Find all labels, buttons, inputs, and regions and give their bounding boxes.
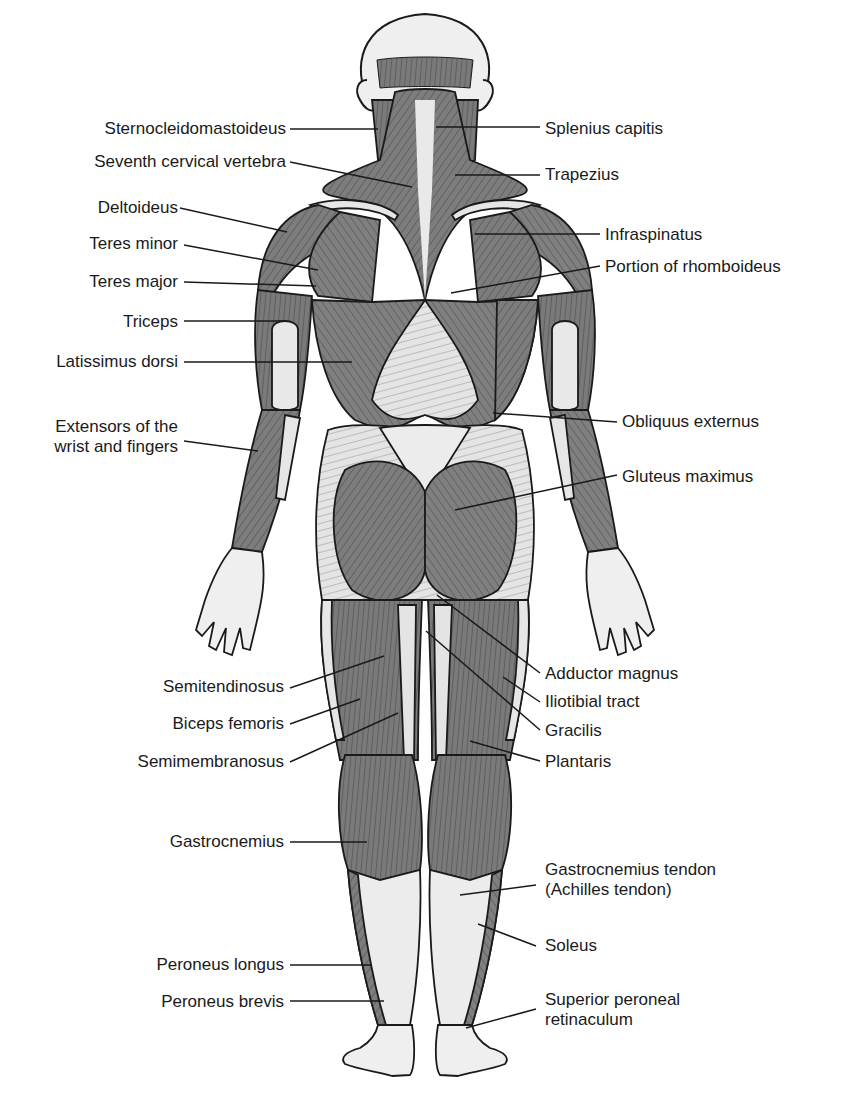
label-obliquus-externus: Obliquus externus — [622, 412, 759, 432]
label-text: Trapezius — [545, 165, 619, 185]
label-text: Triceps — [123, 312, 178, 332]
label-text: Soleus — [545, 936, 597, 956]
label-text: Gastrocnemius — [170, 832, 284, 852]
label-text: Seventh cervical vertebra — [94, 152, 286, 172]
muscle-diagram-posterior: SternocleidomastoideusSeventh cervical v… — [0, 0, 851, 1106]
label-adductor-magnus: Adductor magnus — [545, 664, 678, 684]
label-seventh-cervical-vertebra: Seventh cervical vertebra — [94, 152, 286, 172]
label-splenius-capitis: Splenius capitis — [545, 119, 663, 139]
label-triceps: Triceps — [123, 312, 178, 332]
label-soleus: Soleus — [545, 936, 597, 956]
label-biceps-femoris: Biceps femoris — [173, 714, 284, 734]
label-extensors-wrist-fingers: Extensors of thewrist and fingers — [54, 417, 178, 457]
hips-gluteus — [316, 425, 534, 600]
label-iliotibial-tract: Iliotibial tract — [545, 692, 639, 712]
label-peroneus-brevis: Peroneus brevis — [161, 992, 284, 1012]
label-plantaris: Plantaris — [545, 752, 611, 772]
label-text: Semimembranosus — [138, 752, 284, 772]
thighs-hamstrings — [321, 600, 529, 760]
label-text: Gluteus maximus — [622, 467, 753, 487]
label-text: Semitendinosus — [163, 677, 284, 697]
leader-line-extensors-wrist-fingers — [184, 441, 258, 451]
label-text: Teres major — [89, 272, 178, 292]
label-peroneus-longus: Peroneus longus — [156, 955, 284, 975]
label-teres-minor: Teres minor — [89, 234, 178, 254]
label-trapezius: Trapezius — [545, 165, 619, 185]
label-text: Peroneus longus — [156, 955, 284, 975]
label-text: Latissimus dorsi — [56, 352, 178, 372]
label-gluteus-maximus: Gluteus maximus — [622, 467, 753, 487]
label-text: Adductor magnus — [545, 664, 678, 684]
label-semimembranosus: Semimembranosus — [138, 752, 284, 772]
label-text: Gastrocnemius tendon — [545, 860, 716, 880]
label-deltoideus: Deltoideus — [98, 198, 178, 218]
label-text: retinaculum — [545, 1010, 680, 1030]
label-text: Superior peroneal — [545, 990, 680, 1010]
label-text: (Achilles tendon) — [545, 880, 716, 900]
label-text: Sternocleidomastoideus — [105, 119, 286, 139]
label-gastrocnemius: Gastrocnemius — [170, 832, 284, 852]
label-teres-major: Teres major — [89, 272, 178, 292]
label-text: Portion of rhomboideus — [605, 257, 781, 277]
label-sternocleidomastoideus: Sternocleidomastoideus — [105, 119, 286, 139]
label-semitendinosus: Semitendinosus — [163, 677, 284, 697]
label-text: wrist and fingers — [54, 437, 178, 457]
label-gracilis: Gracilis — [545, 721, 602, 741]
label-latissimus-dorsi: Latissimus dorsi — [56, 352, 178, 372]
label-text: Infraspinatus — [605, 225, 702, 245]
label-text: Iliotibial tract — [545, 692, 639, 712]
label-text: Extensors of the — [54, 417, 178, 437]
leader-line-teres-major — [184, 282, 316, 286]
label-text: Teres minor — [89, 234, 178, 254]
latissimus-and-back — [312, 300, 538, 430]
label-text: Peroneus brevis — [161, 992, 284, 1012]
leader-line-deltoideus — [180, 208, 287, 232]
feet — [343, 1025, 507, 1076]
label-text: Plantaris — [545, 752, 611, 772]
label-gastrocnemius-tendon: Gastrocnemius tendon(Achilles tendon) — [545, 860, 716, 900]
label-superior-peroneal-retinaculum: Superior peronealretinaculum — [545, 990, 680, 1030]
label-text: Deltoideus — [98, 198, 178, 218]
label-text: Gracilis — [545, 721, 602, 741]
label-text: Obliquus externus — [622, 412, 759, 432]
label-infraspinatus: Infraspinatus — [605, 225, 702, 245]
calves-gastrocnemius — [339, 755, 511, 1025]
label-portion-of-rhomboideus: Portion of rhomboideus — [605, 257, 781, 277]
label-text: Splenius capitis — [545, 119, 663, 139]
label-text: Biceps femoris — [173, 714, 284, 734]
